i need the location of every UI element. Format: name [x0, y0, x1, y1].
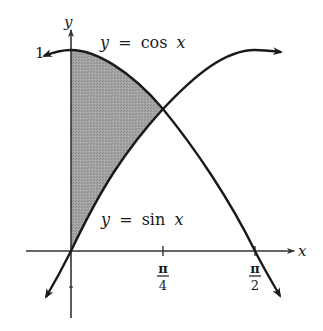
cosine-label: y = cos x	[99, 33, 186, 52]
cosine-curve-left	[44, 50, 71, 56]
sine-curve-left	[46, 251, 71, 297]
svg-text:2: 2	[251, 278, 259, 293]
svg-text:π: π	[250, 261, 260, 276]
svg-text:4: 4	[159, 278, 167, 293]
x-axis-label: x	[298, 242, 307, 260]
svg-text:π: π	[158, 261, 168, 276]
y-tick-label-1: 1	[35, 44, 45, 62]
graph-canvas: y x 1 π 4 π 2 y = cos x y = sin x	[0, 0, 323, 331]
y-axis-label: y	[63, 13, 73, 31]
svg-text:y = cos x: y = cos x	[99, 33, 186, 52]
svg-text:y = sin x: y = sin x	[100, 210, 183, 229]
sine-label: y = sin x	[100, 210, 183, 229]
x-tick-label-pi-over-2: π 2	[249, 261, 261, 293]
x-tick-label-pi-over-4: π 4	[157, 261, 169, 293]
